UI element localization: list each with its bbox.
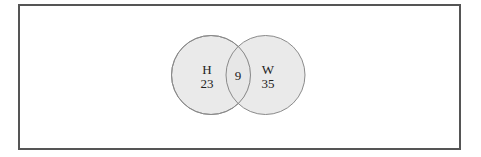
- set-w-only-count: 35: [262, 76, 275, 91]
- set-h-only-count: 23: [201, 76, 214, 91]
- set-h-label: H: [202, 62, 211, 77]
- intersection-count: 9: [235, 68, 242, 83]
- set-w-label: W: [262, 62, 275, 77]
- venn-diagram: H 23 9 W 35: [0, 0, 481, 157]
